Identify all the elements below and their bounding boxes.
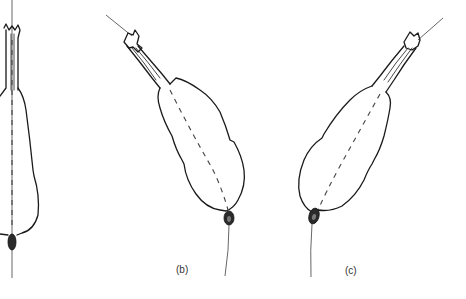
panel-b-drawing <box>106 15 244 276</box>
panel-label-b: (b) <box>176 265 188 275</box>
panel-a-drawing <box>0 0 39 278</box>
panel-label-c: (c) <box>345 266 357 276</box>
panel-c-drawing <box>299 18 443 277</box>
figure: (b) (c) <box>0 0 466 299</box>
